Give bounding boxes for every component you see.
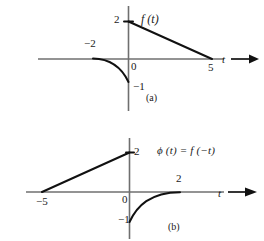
panel-a-label-y-peak: 2 (114, 14, 120, 25)
panel-b-caption: (b) (168, 222, 180, 232)
panel-b-axis-label-t: t (218, 188, 221, 199)
panel-a-function-label: f (t) (141, 13, 159, 25)
panel-a-axis-arrow-head (249, 55, 259, 64)
panel-b-label-x-left: −5 (36, 196, 48, 207)
panel-b-label-origin: 0 (122, 194, 128, 205)
panel-b-exponential-curve (130, 192, 181, 222)
signal-transformation-figure: 2 f (t) −2 0 −1 5 t (a) 2 ϕ (t) = f (−t)… (0, 0, 264, 241)
panel-a-label-y-min: −1 (133, 81, 145, 92)
panel-b-ramp-line (42, 153, 130, 193)
panel-b-label-y-peak: 2 (134, 146, 140, 157)
panel-a-label-origin: 0 (131, 61, 137, 72)
panel-b-label-x-right: 2 (176, 173, 182, 184)
panel-a-caption: (a) (146, 93, 157, 103)
panel-b-function-label: ϕ (t) = f (−t) (157, 145, 215, 156)
panel-a-ramp-line (129, 22, 213, 60)
panel-a-axis-label-t: t (222, 54, 225, 65)
panel-a-label-x-right: 5 (208, 62, 214, 73)
panel-b-graph (26, 138, 257, 239)
panel-a-exponential-curve (93, 59, 129, 83)
panel-b-axis-arrow-head (245, 188, 257, 197)
panel-a-label-x-left: −2 (84, 38, 96, 49)
panel-b-label-y-min: −1 (118, 214, 130, 225)
